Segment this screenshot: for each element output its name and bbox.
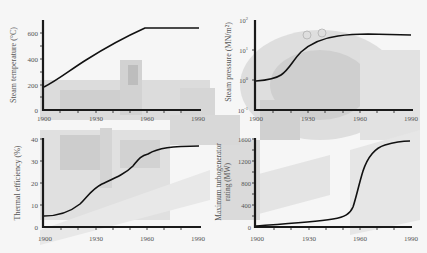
- svg-text:30: 30: [31, 158, 39, 166]
- svg-text:1930: 1930: [301, 115, 316, 123]
- x-tick-labels: 1900 1930 1960 1990: [38, 235, 206, 243]
- svg-text:800: 800: [241, 180, 251, 187]
- svg-text:102: 102: [239, 16, 248, 24]
- svg-text:1900: 1900: [37, 115, 52, 123]
- chart-steam-pressure: Steam pressure (MN/m²) 10-1 100 101 102 …: [213, 0, 427, 127]
- y-axis-label: Thermal efficiency (%): [13, 145, 22, 220]
- svg-text:400: 400: [241, 202, 251, 209]
- y-axis-label: Steam pressure (MN/m²): [224, 22, 233, 102]
- svg-text:0: 0: [35, 107, 39, 115]
- svg-text:200: 200: [28, 82, 39, 90]
- svg-text:1900: 1900: [250, 235, 265, 243]
- svg-text:1600: 1600: [238, 136, 251, 143]
- series-line: [256, 141, 410, 226]
- svg-text:1990: 1990: [191, 235, 206, 243]
- x-tick-labels: 1900 1930 1960 1990: [249, 115, 419, 123]
- svg-text:40: 40: [31, 136, 39, 144]
- svg-text:1960: 1960: [140, 115, 155, 123]
- svg-text:10-1: 10-1: [238, 106, 248, 114]
- x-tick-labels: 1900 1930 1960 1990: [250, 235, 419, 243]
- svg-text:1990: 1990: [191, 115, 206, 123]
- svg-text:100: 100: [239, 76, 249, 84]
- chart-steam-temperature: Steam temperature (°C) 0 200 400 600 190…: [0, 0, 214, 127]
- svg-text:600: 600: [28, 30, 39, 38]
- svg-text:1900: 1900: [38, 235, 53, 243]
- svg-text:20: 20: [31, 180, 39, 188]
- chart-turbogenerator-rating: Maximum turbogenerator rating (MW) 0 400…: [213, 126, 427, 253]
- y-tick-labels: 0 400 800 1200 1600: [238, 136, 251, 231]
- y-tick-labels: 0 200 400 600: [28, 30, 39, 115]
- svg-text:10: 10: [31, 202, 39, 210]
- svg-text:0: 0: [35, 224, 39, 232]
- x-tick-labels: 1900 1930 1960 1990: [37, 115, 206, 123]
- svg-text:1960: 1960: [140, 235, 155, 243]
- svg-text:1930: 1930: [89, 115, 104, 123]
- svg-text:1960: 1960: [353, 115, 368, 123]
- y-tick-labels: 0 10 20 30 40: [31, 136, 39, 232]
- svg-text:101: 101: [239, 46, 248, 54]
- axes: [40, 138, 201, 230]
- svg-text:400: 400: [28, 56, 39, 64]
- y-axis-label-line1: Maximum turbogenerator: [214, 143, 223, 221]
- chart-thermal-efficiency: Thermal efficiency (%) 0 10 20 30 40 190…: [0, 126, 214, 253]
- series-line: [44, 146, 199, 216]
- svg-text:1930: 1930: [89, 235, 104, 243]
- series-line: [256, 34, 411, 81]
- svg-text:1990: 1990: [404, 115, 419, 123]
- svg-text:1930: 1930: [302, 235, 317, 243]
- series-line: [44, 28, 199, 87]
- y-tick-labels: 10-1 100 101 102: [238, 16, 249, 114]
- y-axis-label-line2: rating (MW): [223, 162, 232, 201]
- axes: [252, 138, 412, 230]
- axes: [40, 20, 201, 113]
- svg-text:1900: 1900: [249, 115, 264, 123]
- svg-text:1990: 1990: [404, 235, 419, 243]
- svg-text:1200: 1200: [238, 158, 251, 165]
- y-axis-label: Steam temperature (°C): [9, 27, 18, 103]
- svg-text:0: 0: [248, 224, 251, 231]
- svg-text:1960: 1960: [353, 235, 368, 243]
